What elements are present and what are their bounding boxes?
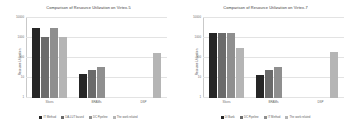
- legend-label: DC Pipeline: [93, 115, 108, 119]
- y-tick-label: 10000: [193, 15, 201, 19]
- bar[interactable]: [227, 33, 235, 98]
- legend-item[interactable]: DI Bank: [221, 115, 235, 119]
- legend-label: DI Bank: [225, 115, 235, 119]
- legend-swatch-icon: [39, 116, 42, 119]
- legend-item[interactable]: IT Method: [39, 115, 56, 119]
- legend-item[interactable]: The work related: [113, 115, 138, 119]
- bar-groups: Slices BRAMs DSP: [203, 17, 344, 98]
- legend-label: The work related: [290, 115, 311, 119]
- legend-item[interactable]: DC Pipeline: [89, 115, 108, 119]
- figure-two-bar-charts: Comparison of Resource Utilization on Vi…: [0, 0, 354, 124]
- bar[interactable]: [50, 28, 58, 98]
- x-tick-label: Slices: [26, 100, 73, 104]
- legend-item[interactable]: IT Method: [264, 115, 281, 119]
- legend-item[interactable]: DA-LUT based: [61, 115, 84, 119]
- bar[interactable]: [32, 28, 40, 98]
- x-tick-label: DSP: [120, 100, 167, 104]
- bar[interactable]: [79, 74, 87, 98]
- legend-swatch-icon: [61, 116, 64, 119]
- x-tick-label: BRAMs: [250, 100, 297, 104]
- bar[interactable]: [209, 33, 217, 98]
- chart-title: Comparison of Resource Utilization on Vi…: [177, 5, 354, 11]
- bar[interactable]: [153, 53, 161, 98]
- bar[interactable]: [256, 75, 264, 98]
- bar-groups: Slices BRAMs DSP: [26, 17, 167, 98]
- y-tick-label: 1000: [18, 35, 24, 39]
- bar-group: BRAMs: [250, 17, 297, 98]
- y-tick-label: 10: [21, 75, 24, 79]
- y-tick-label: 1: [22, 95, 24, 99]
- y-tick-label: 1000: [195, 35, 201, 39]
- legend-item[interactable]: DC Pipeline: [240, 115, 259, 119]
- legend-swatch-icon: [89, 116, 92, 119]
- chart-title: Comparison of Resource Utilization on Vi…: [0, 5, 177, 11]
- legend-swatch-icon: [113, 116, 116, 119]
- bar-group: DSP: [297, 17, 344, 98]
- chart-legend: IT Method DA-LUT based DC Pipeline The w…: [0, 115, 177, 119]
- legend-swatch-icon: [221, 116, 224, 119]
- legend-swatch-icon: [240, 116, 243, 119]
- bar[interactable]: [330, 52, 338, 98]
- bar[interactable]: [265, 70, 273, 98]
- bar-group: Slices: [203, 17, 250, 98]
- y-tick-label: 10: [198, 75, 201, 79]
- y-tick-label: 10000: [16, 15, 24, 19]
- y-tick-label: 100: [19, 55, 24, 59]
- x-tick-label: DSP: [297, 100, 344, 104]
- legend-swatch-icon: [285, 116, 288, 119]
- legend-label: IT Method: [44, 115, 57, 119]
- chart-panel-virtex5: Comparison of Resource Utilization on Vi…: [0, 0, 177, 124]
- chart-panel-virtex7: Comparison of Resource Utilization on Vi…: [177, 0, 354, 124]
- bar-group: DSP: [120, 17, 167, 98]
- chart-legend: DI Bank DC Pipeline IT Method The work r…: [177, 115, 354, 119]
- legend-label: DA-LUT based: [65, 115, 83, 119]
- bar-group: Slices: [26, 17, 73, 98]
- bar[interactable]: [218, 33, 226, 98]
- bar[interactable]: [274, 67, 282, 98]
- plot-area: 10000 1000 100 10 1 Slices: [203, 17, 344, 98]
- legend-swatch-icon: [264, 116, 267, 119]
- bar[interactable]: [88, 70, 96, 98]
- x-tick-label: Slices: [203, 100, 250, 104]
- legend-label: DC Pipeline: [244, 115, 259, 119]
- legend-label: IT Method: [268, 115, 281, 119]
- legend-label: The work related: [117, 115, 138, 119]
- y-tick-label: 1: [199, 95, 201, 99]
- legend-item[interactable]: The work related: [285, 115, 310, 119]
- bar[interactable]: [97, 67, 105, 98]
- plot-area: 10000 1000 100 10 1 Slices: [26, 17, 167, 98]
- bar[interactable]: [59, 37, 67, 98]
- bar-group: BRAMs: [73, 17, 120, 98]
- bar[interactable]: [236, 48, 244, 98]
- y-axis-label: Resource Utilization: [195, 49, 199, 76]
- y-tick-label: 100: [196, 55, 201, 59]
- x-tick-label: BRAMs: [73, 100, 120, 104]
- bar[interactable]: [41, 37, 49, 98]
- y-axis-label: Resource Utilization: [18, 49, 22, 76]
